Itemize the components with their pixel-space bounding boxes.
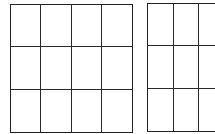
grid-cell — [148, 89, 174, 131]
grid-cell — [72, 47, 102, 89]
right-grid — [147, 3, 215, 132]
grid-cell — [11, 5, 41, 47]
grid-cell — [102, 47, 132, 89]
grid-cell — [199, 4, 215, 46]
grid-cell — [41, 5, 71, 47]
grid-cell — [11, 90, 41, 132]
grid-cell — [199, 46, 215, 88]
grid-cell — [102, 5, 132, 47]
grid-cell — [174, 46, 200, 88]
grid-cell — [41, 47, 71, 89]
grid-cell — [41, 90, 71, 132]
grid-cell — [102, 90, 132, 132]
grid-cell — [148, 46, 174, 88]
grid-cell — [174, 4, 200, 46]
grid-cell — [148, 4, 174, 46]
grid-cell — [72, 5, 102, 47]
grid-cell — [174, 89, 200, 131]
grid-cell — [72, 90, 102, 132]
left-grid — [10, 4, 133, 133]
grid-cell — [11, 47, 41, 89]
grid-cell — [199, 89, 215, 131]
